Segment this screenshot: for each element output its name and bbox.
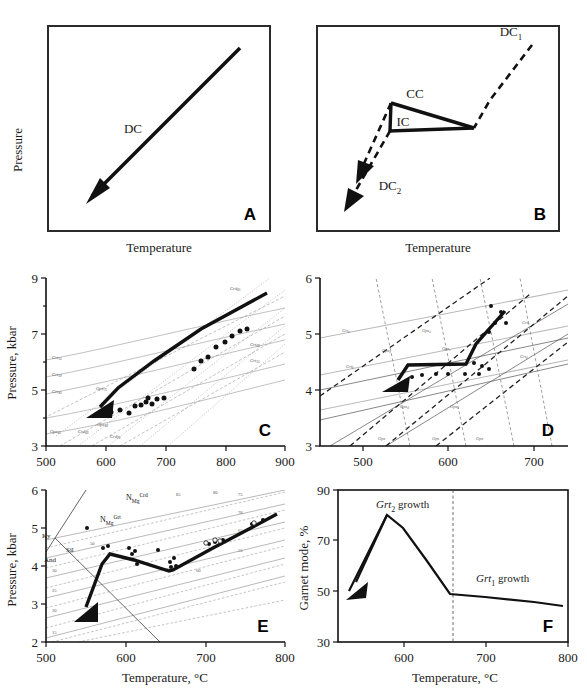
panel-b-dc2-path-upper [356, 103, 391, 184]
panel-c-ytick-9: 9 [32, 271, 39, 286]
panel-d: Grta Grtb Grtc Grtd Opxa Opxb Opxc Opxd … [290, 268, 587, 480]
panel-c-letter: C [259, 421, 271, 440]
panel-e-axes: 6 5 4 3 2 500 600 700 800 [32, 483, 295, 665]
panel-d-xtick-500: 500 [353, 454, 373, 469]
panel-f-xtick-800: 800 [558, 650, 578, 665]
panel-c: Pressure, kbar Grt55 [0, 268, 290, 480]
panel-b-xlabel: Temperature [405, 240, 471, 255]
panel-e-ylabel: Pressure, kbar [4, 533, 19, 607]
panel-c-iso-grt55-right: Grt55 [250, 358, 260, 364]
panel-d-ytick-6: 6 [306, 271, 313, 286]
panel-e-num-55: 55 [238, 548, 243, 553]
panel-d-iso-grt-c: Grtc [522, 320, 530, 326]
panel-b-dc1-path [474, 45, 532, 128]
panel-e-data-points [85, 518, 265, 569]
panel-d-iso-opx-bot2: Opx [432, 436, 439, 441]
panel-e-ytick-3: 3 [32, 597, 39, 612]
panel-d-xtick-600: 600 [438, 454, 458, 469]
panel-e-label-nmg-grt: NMgGrt [100, 514, 121, 526]
panel-d-xtick-700: 700 [524, 454, 544, 469]
panel-b-letter: B [534, 205, 546, 224]
panel-f: Garnet mode, % Grt2 growth Grt1 growth F [290, 482, 587, 690]
panel-f-xtick-600: 600 [394, 650, 414, 665]
panel-c-pt-path [86, 293, 267, 418]
panel-f-ytick-90: 90 [317, 483, 330, 498]
panel-e-num-30: 30 [52, 568, 57, 573]
panel-e-xlabel: Temperature, °C [122, 670, 208, 685]
panel-d-pt-path [382, 311, 505, 392]
panel-a-dc-path [86, 48, 240, 204]
panel-e-ytick-5: 5 [32, 521, 39, 536]
figure-root: Pressure DC A Temperature [0, 0, 587, 690]
panel-e-pt-path [74, 514, 277, 622]
panel-e-ytick-2: 2 [32, 635, 39, 650]
panel-f-label-grt2: Grt2 growth [376, 498, 430, 514]
panel-d-iso-opx-d: Opxd [400, 404, 409, 410]
panel-f-arrow [346, 515, 387, 600]
panel-e-ytick-6: 6 [32, 483, 39, 498]
panel-c-ytick-3: 3 [32, 439, 39, 454]
panel-d-ytick-4: 4 [306, 383, 313, 398]
panel-c-xtick-500: 500 [36, 454, 56, 469]
panel-b-label-cc: CC [406, 86, 423, 101]
panel-d-ytick-5: 5 [306, 327, 313, 342]
panel-b-label-dc2: DC2 [379, 178, 402, 196]
panel-c-data-points [109, 327, 250, 416]
panel-e-num-20: 20 [52, 608, 57, 613]
panel-d-data-points [401, 304, 508, 385]
panel-c-iso-opx65: Opx65 [50, 429, 61, 435]
panel-e-num-85: 85 [176, 492, 181, 497]
panel-f-ytick-70: 70 [317, 533, 330, 548]
panel-d-ytick-3: 3 [306, 439, 313, 454]
panel-c-iso-crd90: Crd90 [110, 434, 121, 440]
panel-e-letter: E [257, 617, 268, 636]
panel-a-ylabel: Pressure [10, 128, 25, 172]
panel-b: DC1 CC IC DC2 B Temperature [290, 0, 587, 262]
panel-d-iso-opx-bot1: Opx [378, 436, 385, 441]
panel-f-ytick-50: 50 [317, 584, 330, 599]
panel-c-ytick-5: 5 [32, 383, 39, 398]
panel-a: Pressure DC A Temperature [0, 0, 290, 262]
panel-e-num-60: 60 [196, 568, 201, 573]
panel-e-num-70: 70 [238, 510, 243, 515]
panel-f-ytick-30: 30 [317, 635, 330, 650]
panel-c-iso-grt55-left: Grt55 [52, 355, 62, 361]
panel-f-xlabel: Temperature, °C [412, 670, 498, 685]
panel-c-iso-grt60-right: Grt60 [250, 342, 260, 348]
panel-e-xtick-600: 600 [116, 650, 136, 665]
panel-c-ytick-7: 7 [32, 327, 39, 342]
panel-e: Pressure, kbar [0, 482, 290, 690]
panel-d-letter: D [542, 421, 554, 440]
panel-c-iso-grt50-left: Grt50 [52, 372, 62, 378]
panel-a-letter: A [244, 205, 256, 224]
panel-c-iso-grt45-left: Grt45 [52, 389, 62, 395]
panel-c-xtick-700: 700 [156, 454, 176, 469]
panel-e-num-15: 15 [52, 630, 57, 635]
panel-f-ylabel: Garnet mode, % [296, 525, 311, 610]
panel-e-num-75: 75 [238, 492, 243, 497]
panel-c-iso-crd85-top: Crd85 [230, 286, 241, 292]
panel-d-iso-grt-d: Grtd [520, 354, 528, 360]
panel-d-iso-opx-bot3: Opx [476, 436, 483, 441]
panel-e-xtick-500: 500 [36, 650, 56, 665]
panel-d-isopleth-curves [320, 278, 568, 446]
panel-d-iso-opx-c: Opxc [442, 346, 451, 352]
panel-e-label-sil: Sil [66, 546, 74, 554]
panel-c-xtick-600: 600 [96, 454, 116, 469]
panel-d-iso-opx-e: Opxe [450, 404, 459, 410]
panel-c-ylabel: Pressure, kbar [4, 326, 19, 400]
panel-a-label-dc: DC [124, 121, 142, 136]
panel-e-num-50: 50 [90, 541, 95, 546]
panel-e-xtick-700: 700 [196, 650, 216, 665]
panel-e-ytick-4: 4 [32, 559, 39, 574]
panel-d-iso-opx-b: Opxb [382, 348, 391, 354]
panel-a-xlabel: Temperature [126, 240, 192, 255]
panel-f-xtick-700: 700 [476, 650, 496, 665]
panel-e-num-80: 80 [213, 490, 218, 495]
panel-c-iso-opx75: Opx75 [96, 386, 107, 392]
panel-f-axes: 90 70 50 30 600 700 800 [317, 483, 578, 665]
panel-c-xtick-800: 800 [216, 454, 236, 469]
panel-f-label-grt1: Grt1 growth [476, 572, 530, 588]
panel-f-letter: F [543, 617, 553, 636]
panel-d-iso-opx-a: Opxa [422, 328, 431, 334]
